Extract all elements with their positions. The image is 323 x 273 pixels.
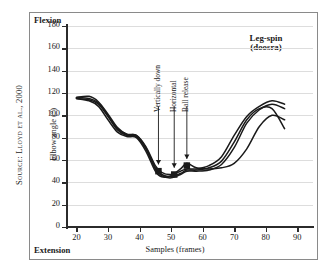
event-marker (171, 171, 178, 178)
annotation-arrow-head (156, 160, 161, 165)
figure-container: Source: Lloyd et al., 2000 Flexion Exten… (0, 0, 323, 273)
annotation-label: Horizontal (169, 81, 178, 113)
annotation-arrow-head (172, 163, 177, 168)
event-marker (184, 162, 191, 169)
event-marker (155, 168, 162, 175)
annotation-arrow-head (184, 154, 189, 159)
annotation-label: Vertically down (153, 65, 162, 112)
annotation-label: Ball release (181, 78, 190, 113)
data-curves-layer (0, 0, 323, 273)
